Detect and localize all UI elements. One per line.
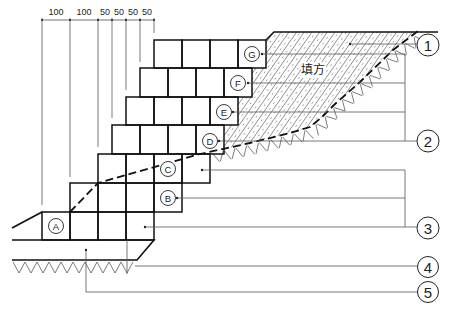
- natural-ground-hatch-line: [325, 117, 328, 128]
- callout-5: 5: [418, 282, 439, 303]
- dimension-tick: [139, 19, 141, 21]
- foundation-base: [12, 240, 154, 260]
- natural-ground-hatch-line: [361, 84, 371, 88]
- block: [112, 125, 140, 154]
- block: [196, 68, 224, 97]
- leader-dot: [349, 43, 351, 45]
- tag-a: A: [49, 219, 64, 234]
- callout-number: 4: [424, 259, 432, 276]
- tag-label: C: [165, 164, 172, 175]
- leader-dot: [85, 249, 87, 251]
- block: [168, 125, 196, 154]
- tag-f: F: [231, 76, 246, 91]
- dimension-label: 100: [48, 7, 63, 17]
- tag-e: E: [217, 105, 232, 120]
- foundation-ground-hatch-line: [73, 262, 79, 273]
- block: [98, 183, 126, 212]
- dimension-tick: [97, 19, 99, 21]
- foundation-ground-hatch-line: [49, 262, 55, 273]
- backfill-hatch-line: [292, 32, 362, 133]
- natural-ground-hatch-line: [244, 146, 247, 157]
- foundation-ground-hatch-line: [79, 262, 85, 273]
- natural-ground-hatch-line: [256, 143, 258, 154]
- tag-label: F: [235, 78, 241, 89]
- block: [98, 212, 126, 240]
- natural-ground-hatch-line: [236, 148, 243, 157]
- callout-number: 5: [424, 284, 432, 301]
- backfill-hatch-line: [321, 32, 381, 118]
- natural-ground-hatch-line: [317, 124, 327, 129]
- natural-ground-hatch-line: [220, 151, 223, 162]
- natural-ground-hatch-line: [369, 76, 372, 87]
- dimension-label: 50: [114, 7, 124, 17]
- callout-1: 1: [417, 34, 439, 56]
- natural-ground-hatch-line: [224, 151, 231, 160]
- dimension-label: 50: [142, 7, 152, 17]
- dimension-tick: [41, 19, 43, 21]
- backfill-hatch-line: [297, 32, 366, 131]
- block: [182, 97, 210, 125]
- natural-ground-hatch-line: [334, 108, 338, 119]
- natural-ground-hatch-line: [259, 143, 266, 152]
- dimension-label: 100: [76, 7, 91, 17]
- natural-ground-hatch-line: [360, 84, 363, 95]
- tag-c: C: [161, 162, 176, 177]
- tag-b: B: [161, 191, 176, 206]
- backfill-hatch-line: [365, 32, 397, 77]
- backfill-hatch-line: [252, 68, 260, 79]
- natural-ground-hatch-line: [306, 130, 314, 138]
- tag-label: A: [53, 221, 60, 232]
- backfill-hatch-line: [266, 32, 281, 54]
- natural-ground-hatch-line: [370, 75, 381, 79]
- backfill-hatch-line: [264, 32, 339, 140]
- leader-dot: [176, 197, 178, 199]
- callout-2: 2: [417, 130, 439, 152]
- natural-ground-hatch-line: [378, 67, 389, 71]
- foundation-ground-hatch-line: [109, 262, 115, 273]
- leader-line-5: [86, 250, 418, 292]
- callout-3: 3: [417, 217, 439, 239]
- natural-ground-hatch-line: [268, 140, 270, 151]
- block: [182, 40, 210, 68]
- retaining-wall-section-drawing: 100 100 50 50 50 50 填方: [0, 0, 450, 313]
- callout-number: 2: [424, 133, 432, 150]
- tag-d: D: [203, 134, 218, 149]
- natural-ground-hatch-line: [291, 134, 293, 145]
- leader-dot: [261, 53, 263, 55]
- foundation-ground-hatch-line: [37, 262, 43, 273]
- leader-dot: [247, 82, 249, 84]
- block: [154, 97, 182, 125]
- block: [140, 68, 168, 97]
- backfill-hatch-line: [224, 125, 232, 136]
- leader-dot: [232, 111, 234, 113]
- foundation-ground-hatch-line: [19, 262, 25, 273]
- natural-ground-hatch-line: [395, 51, 398, 62]
- leader-dot: [201, 169, 203, 171]
- natural-ground-hatch-line: [405, 44, 407, 55]
- backfill-hatch-line: [252, 68, 264, 85]
- foundation-ground-hatch: [13, 262, 133, 273]
- block: [168, 68, 196, 97]
- backfill-hatch-line: [238, 32, 300, 121]
- block: [70, 212, 98, 240]
- backfill-hatch-line: [278, 32, 351, 136]
- callout-number: 3: [424, 220, 432, 237]
- tag-label: B: [165, 193, 171, 204]
- foundation-ground-hatch-line: [13, 262, 19, 273]
- dimension-label: 50: [100, 7, 110, 17]
- natural-ground-hatch-line: [279, 137, 281, 148]
- natural-ground-hatch-line: [343, 100, 353, 104]
- tag-label: G: [248, 49, 255, 60]
- natural-ground-hatch-line: [334, 108, 345, 112]
- tag-label: D: [207, 136, 214, 147]
- backfill-hatch-line: [334, 32, 385, 105]
- backfill-hatch-line: [268, 32, 342, 138]
- dimension-tick: [125, 19, 127, 21]
- callout-4: 4: [418, 257, 439, 278]
- fill-label: 填方: [301, 62, 325, 77]
- backfill-hatch-line: [238, 97, 247, 110]
- natural-ground-hatch-line: [303, 131, 305, 142]
- foundation-ground-hatch-line: [31, 262, 37, 273]
- natural-ground-hatch-line: [396, 51, 406, 56]
- leader-dot: [218, 140, 220, 142]
